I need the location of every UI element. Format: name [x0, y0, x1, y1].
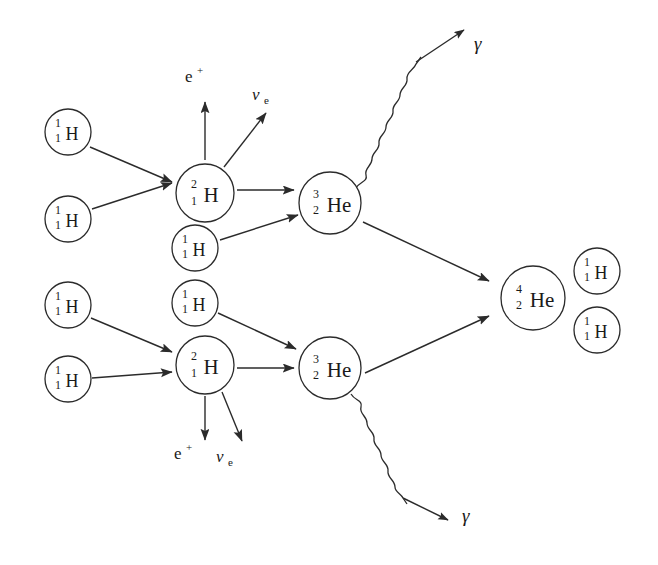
positron-symbol: e [185, 67, 193, 86]
atomic-number: 1 [55, 131, 61, 145]
gamma-symbol-bot: γ [462, 505, 470, 526]
element-symbol: H [193, 295, 206, 315]
element-symbol: H [66, 371, 79, 391]
gamma-symbol-top: γ [474, 33, 482, 54]
pp-chain-canvas: 1 1 H 1 1 H 2 1 H 1 1 H 3 2 [0, 0, 658, 565]
mass-number: 1 [182, 287, 188, 301]
neutrino-flavor: e [228, 456, 233, 468]
arrow-neutrino-top [224, 113, 266, 167]
arrow-he3top-to-he4 [363, 222, 489, 281]
element-symbol: He [530, 288, 555, 312]
atomic-number: 1 [182, 302, 188, 316]
element-symbol: H [66, 124, 79, 144]
element-symbol: H [595, 263, 608, 283]
mass-number: 1 [182, 232, 188, 246]
atomic-number: 1 [55, 218, 61, 232]
nucleus-h2-top: 2 1 H [176, 164, 234, 222]
element-symbol: H [595, 322, 608, 342]
mass-number: 3 [313, 352, 319, 366]
label-positron-bot: e + [174, 441, 192, 463]
nucleus-he3-top: 3 2 He [299, 172, 361, 234]
neutrino-symbol: ν [216, 447, 224, 466]
arrow-h1f-to-he3bot [218, 313, 296, 349]
nucleus-h1-a: 1 1 H [45, 109, 91, 155]
atomic-number: 1 [182, 247, 188, 261]
mass-number: 1 [55, 363, 61, 377]
nucleus-h2-bot: 2 1 H [176, 336, 234, 394]
element-symbol: H [66, 211, 79, 231]
gamma-arrow-bot [403, 498, 448, 520]
arrow-he3bot-to-he4 [365, 316, 489, 373]
nucleus-h1-d: 1 1 H [45, 282, 91, 328]
mass-number: 1 [584, 255, 590, 269]
arrow-h1c-to-he3top [220, 215, 298, 240]
atomic-number: 1 [55, 378, 61, 392]
mass-number: 4 [516, 282, 522, 296]
arrow-h1a-to-h2top [90, 147, 172, 182]
nucleus-he3-bot: 3 2 He [299, 337, 361, 399]
element-symbol: H [203, 183, 218, 207]
mass-number: 3 [313, 187, 319, 201]
positron-charge: + [186, 441, 192, 453]
mass-number: 2 [191, 177, 197, 191]
element-symbol: He [327, 358, 352, 382]
mass-number: 1 [55, 203, 61, 217]
atomic-number: 1 [55, 304, 61, 318]
nucleus-h1-out2: 1 1 H [574, 307, 620, 353]
gamma-arrow-top [416, 30, 464, 62]
nucleus-h1-out1: 1 1 H [574, 248, 620, 294]
nucleus-he4: 4 2 He [501, 266, 565, 330]
label-neutrino-bot: ν e [216, 447, 233, 468]
atomic-number: 1 [191, 194, 197, 208]
label-neutrino-top: ν e [252, 85, 269, 106]
mass-number: 1 [584, 314, 590, 328]
pp-chain-diagram: 1 1 H 1 1 H 2 1 H 1 1 H 3 2 [0, 0, 658, 565]
mass-number: 1 [55, 289, 61, 303]
mass-number: 1 [55, 116, 61, 130]
nucleus-h1-b: 1 1 H [45, 196, 91, 242]
atomic-number: 2 [313, 203, 319, 217]
atomic-number: 2 [516, 298, 522, 312]
atomic-number: 1 [584, 270, 590, 284]
nucleus-h1-f: 1 1 H [172, 280, 218, 326]
atomic-number: 1 [191, 366, 197, 380]
atomic-number: 1 [584, 329, 590, 343]
element-symbol: H [193, 240, 206, 260]
nucleus-h1-e: 1 1 H [45, 356, 91, 402]
neutrino-flavor: e [264, 94, 269, 106]
gamma-wave-top [356, 57, 421, 188]
label-positron-top: e + [185, 64, 203, 86]
mass-number: 2 [191, 349, 197, 363]
gamma-wave-bot [351, 394, 407, 504]
nucleus-h1-c: 1 1 H [172, 225, 218, 271]
arrow-h1d-to-h2bot [91, 318, 172, 352]
positron-symbol: e [174, 444, 182, 463]
arrow-h1b-to-h2top [92, 183, 172, 209]
element-symbol: H [203, 355, 218, 379]
arrow-neutrino-bot [222, 392, 242, 441]
element-symbol: H [66, 297, 79, 317]
positron-charge: + [197, 64, 203, 76]
arrow-h1e-to-h2bot [92, 372, 172, 378]
element-symbol: He [327, 193, 352, 217]
atomic-number: 2 [313, 368, 319, 382]
neutrino-symbol: ν [252, 85, 260, 104]
